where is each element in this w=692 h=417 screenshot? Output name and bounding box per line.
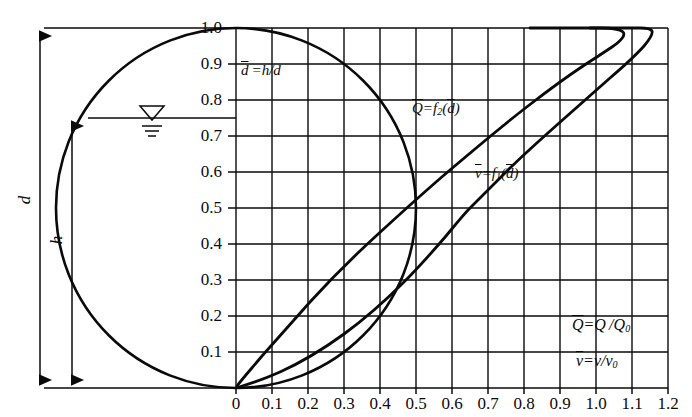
annotation-q-curve: Q=f2(d) bbox=[412, 100, 460, 117]
y-tick-0_1: 0.1 bbox=[176, 342, 222, 362]
y-tick-0_3: 0.3 bbox=[176, 270, 222, 290]
annotation-v-curve: v=f1(d) bbox=[475, 165, 518, 182]
d-bar-symbol: d bbox=[241, 62, 249, 78]
water-level-icon bbox=[140, 106, 164, 136]
figure-canvas: 1.0 0.9 0.8 0.7 0.6 0.5 0.4 0.3 0.2 0.1 … bbox=[0, 0, 692, 417]
annotation-d-definition: d =h/d bbox=[241, 62, 281, 79]
dimension-label-d: d bbox=[15, 185, 35, 215]
legend-q-definition: Q=Q /Q0 bbox=[572, 316, 630, 334]
y-tick-0_2: 0.2 bbox=[176, 306, 222, 326]
y-tick-0_8: 0.8 bbox=[176, 90, 222, 110]
legend-v-definition: v=v/v0 bbox=[576, 352, 618, 370]
dimension-label-h: h bbox=[47, 225, 67, 255]
x-tick-1_2: 1.2 bbox=[646, 394, 690, 414]
y-tick-0_6: 0.6 bbox=[176, 162, 222, 182]
y-tick-1_0: 1.0 bbox=[176, 18, 222, 38]
d-definition-rhs: =h/d bbox=[249, 62, 281, 78]
y-tick-0_5: 0.5 bbox=[176, 198, 222, 218]
q-bar-symbol: Q bbox=[412, 100, 423, 116]
v-bar-symbol: v bbox=[475, 165, 482, 181]
y-tick-0_4: 0.4 bbox=[176, 234, 222, 254]
y-tick-0_7: 0.7 bbox=[176, 126, 222, 146]
curve-q-discharge bbox=[237, 28, 624, 386]
y-tick-0_9: 0.9 bbox=[176, 54, 222, 74]
y-axis-ticks bbox=[228, 64, 236, 352]
